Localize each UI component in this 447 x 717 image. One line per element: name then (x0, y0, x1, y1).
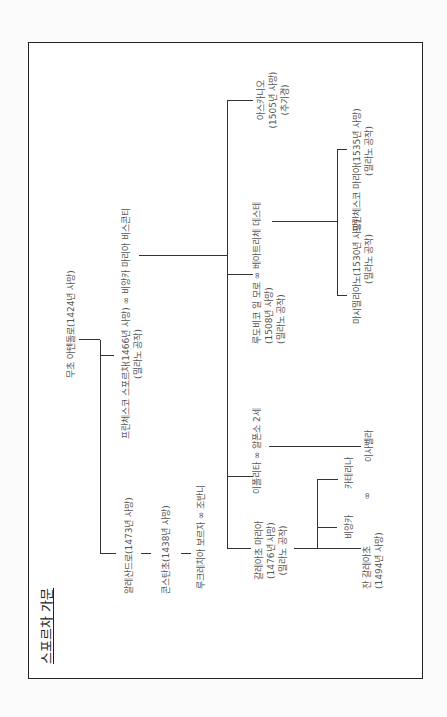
person-massimiliano-title: (밀라노 공작) (363, 224, 375, 294)
person-caterina: 카테리나 (343, 454, 355, 492)
person-gian-galeazzo-death: (1494년 사망) (373, 519, 385, 589)
person-ludovico-title: (밀라노 공작) (275, 284, 287, 344)
connector-galeazzo-children (294, 548, 361, 549)
person-francesco-title: (밀라노 공작) (132, 314, 144, 394)
connector-galeazzo-children-bar (317, 480, 318, 549)
connector-ludovico (227, 274, 253, 275)
family-tree-frame: 스포르차 가문 무초 아텐돌로(1424년 사망) 프란체스코 스포르차(146… (28, 42, 423, 679)
connector-galeazzo (227, 548, 251, 549)
connector-alessandro-costanzo (141, 553, 151, 554)
marriage-symbol-gian-galeazzo: ∞ (361, 490, 373, 502)
connector-ascanio (227, 100, 253, 101)
person-muzio: 무초 아텐돌로(1424년 사망) (65, 264, 77, 384)
person-francesco-ii: 프란체스코 마리아(1535년 사망) (351, 70, 363, 232)
connector-muzio (79, 339, 100, 340)
person-francesco-ii-title: (밀라노 공작) (363, 116, 375, 186)
person-giovanni: 루크레치아 보르자 ∞ 조반니 (195, 489, 207, 589)
person-ascanio-death: (1505년 사망) (267, 71, 279, 129)
person-galeazzo-title: (밀라노 공작) (277, 512, 289, 589)
person-ascanio-title: (추기경) (279, 71, 291, 129)
connector-ludovico-children (272, 221, 337, 222)
connector-caterina (317, 479, 338, 480)
connector-francesco-children (139, 255, 227, 256)
connector-massimiliano (337, 295, 347, 296)
connector-bianca (317, 527, 337, 528)
person-alessandro: 알레산드로(1473년 사망) (123, 504, 135, 594)
person-galeazzo: 갈레아초 마리아 (253, 512, 265, 589)
connector-francesco-ii (337, 149, 347, 150)
person-ludovico: 루도비코 일 모로 ∞ 베아트리체 데스테 (251, 159, 263, 344)
diagram-title: 스포르차 가문 (39, 588, 55, 664)
connector-ippolita-isabella (269, 446, 361, 447)
person-costanzo: 콘스탄초(1438년 사망) (160, 504, 172, 594)
connector-ippolita (227, 476, 253, 477)
connector-gen1-bar (100, 340, 101, 554)
person-francesco: 프란체스코 스포르차(1466년 사망) ∞ 비앙카 마리아 비스콘티 (120, 169, 132, 439)
person-gian-galeazzo: 잔 갈레아초 (361, 519, 373, 589)
person-ascanio: 아스카니오 (255, 71, 267, 129)
person-ludovico-death: (1508년 사망) (263, 284, 275, 344)
connector-gen3-bar (227, 101, 228, 549)
connector-costanzo-giovanni (181, 553, 191, 554)
person-isabella: 이사벨라 (363, 427, 375, 465)
connector-alessandro (100, 553, 116, 554)
connector-francesco (100, 355, 114, 356)
person-bianca: 비앙카 (343, 513, 355, 541)
person-ippolita: 이폴리타 ∞ 알폰소 2세 (251, 389, 263, 494)
person-galeazzo-death: (1476년 사망) (265, 512, 277, 589)
connector-ludovico-children-bar (337, 150, 338, 296)
